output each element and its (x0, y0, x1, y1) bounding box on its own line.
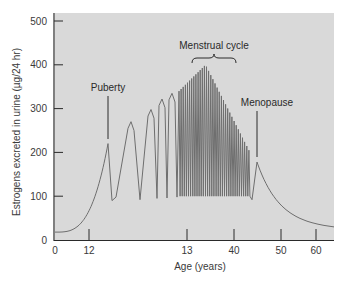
x-tick-label: 40 (228, 245, 240, 256)
estrogen-chart: 010020030040050001213405060 Estrogens ex… (0, 0, 344, 281)
menstrual-label: Menstrual cycle (179, 40, 249, 51)
x-tick-label: 0 (52, 245, 58, 256)
y-tick-label: 300 (30, 103, 47, 114)
y-tick-label: 500 (30, 16, 47, 27)
puberty-label: Puberty (91, 82, 125, 93)
x-tick-label: 12 (83, 245, 95, 256)
y-tick-label: 200 (30, 147, 47, 158)
y-tick-label: 400 (30, 59, 47, 70)
y-tick-label: 100 (30, 191, 47, 202)
menopause-label: Menopause (241, 97, 294, 108)
x-tick-label: 13 (181, 245, 193, 256)
x-tick-label: 60 (310, 245, 322, 256)
x-axis-title: Age (years) (174, 261, 226, 272)
y-axis-title: Estrogens excreted in urine (µg/24 hr) (11, 48, 22, 216)
x-tick-label: 50 (275, 245, 287, 256)
y-tick-label: 0 (41, 235, 47, 246)
